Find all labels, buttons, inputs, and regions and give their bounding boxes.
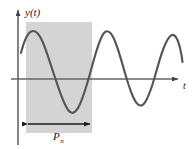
period-label-symbol: P <box>52 130 60 142</box>
waveform-diagram: y(t) t Pn <box>0 0 194 149</box>
t-axis-label: t <box>183 80 186 91</box>
waveform-figure: y(t) t Pn <box>0 0 194 149</box>
period-label-subscript: n <box>60 137 64 145</box>
period-shaded-region <box>26 22 92 133</box>
y-axis-label: y(t) <box>24 6 41 19</box>
